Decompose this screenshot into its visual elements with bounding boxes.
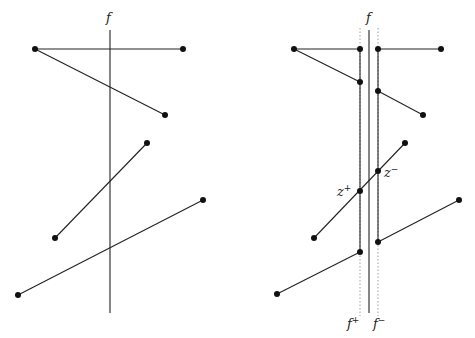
label-f-left: f bbox=[106, 11, 111, 24]
diagram-canvas: f f f+ f− z+ z− bbox=[0, 0, 475, 338]
segment bbox=[55, 143, 147, 238]
segment bbox=[277, 252, 360, 294]
segment bbox=[378, 91, 423, 115]
left-panel bbox=[18, 30, 203, 313]
label-f-plus: f+ bbox=[347, 316, 359, 330]
segment bbox=[35, 49, 165, 115]
diagram-svg bbox=[0, 0, 475, 338]
label-f-minus: f− bbox=[373, 316, 385, 330]
label-z-minus: z− bbox=[384, 165, 398, 179]
segment bbox=[378, 200, 459, 242]
right-points bbox=[274, 46, 462, 297]
point-z-minus bbox=[375, 168, 381, 174]
label-f-right: f bbox=[366, 11, 371, 24]
right-panel bbox=[274, 28, 462, 316]
segment bbox=[294, 49, 360, 82]
label-z-plus: z+ bbox=[337, 184, 351, 198]
point-z-plus bbox=[357, 188, 363, 194]
